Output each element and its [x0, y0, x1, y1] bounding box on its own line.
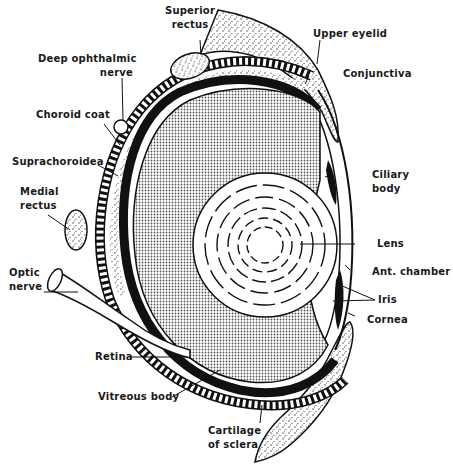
label-choroid-coat: Choroid coat — [36, 108, 110, 122]
label-line: Ciliary — [372, 168, 409, 182]
label-cornea: Cornea — [367, 313, 408, 327]
label-ciliary-body: Ciliary body — [372, 168, 409, 196]
label-line: Medial — [20, 185, 59, 199]
label-conjunctiva: Conjunctiva — [343, 67, 412, 81]
label-line: nerve — [9, 280, 42, 294]
iris — [335, 270, 344, 330]
label-medial-rectus: Medial rectus — [20, 185, 59, 213]
label-lens: Lens — [377, 237, 404, 251]
label-line: of sclera — [208, 438, 261, 452]
label-line: Deep ophthalmic — [38, 52, 133, 66]
label-line: rectus — [20, 199, 59, 213]
deep-ophthalmic-nerve — [114, 120, 128, 134]
label-superior-rectus: Superior rectus — [165, 4, 215, 32]
label-upper-eyelid: Upper eyelid — [313, 27, 387, 41]
label-line: nerve — [38, 66, 133, 80]
label-deep-ophthalmic-nerve: Deep ophthalmic nerve — [38, 52, 133, 80]
label-suprachoroidea: Suprachoroidea — [12, 155, 104, 169]
label-line: Optic — [9, 266, 42, 280]
label-line: Cartilage — [208, 424, 261, 438]
ciliary-body — [326, 160, 337, 205]
label-optic-nerve: Optic nerve — [9, 266, 42, 294]
label-vitreous-body: Vitreous body — [98, 390, 179, 404]
label-iris: Iris — [378, 293, 397, 307]
label-cartilage-of-sclera: Cartilage of sclera — [208, 424, 261, 452]
medial-rectus — [65, 210, 87, 250]
label-retina: Retina — [95, 350, 133, 364]
label-line: Superior — [165, 4, 215, 18]
lens — [193, 173, 337, 317]
label-ant-chamber: Ant. chamber — [372, 265, 450, 279]
label-line: body — [372, 182, 409, 196]
label-line: rectus — [165, 18, 215, 32]
